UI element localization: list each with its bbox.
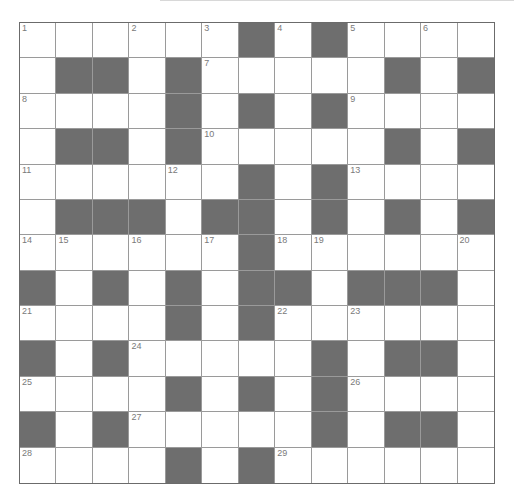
grid-cell-r12-c3[interactable] xyxy=(129,448,165,483)
grid-cell-r12-c0[interactable]: 28 xyxy=(20,448,56,483)
grid-cell-r4-c5[interactable] xyxy=(202,165,238,200)
grid-cell-r6-c7[interactable]: 18 xyxy=(275,235,311,270)
grid-cell-r10-c0[interactable]: 25 xyxy=(20,377,56,412)
grid-cell-r8-c12[interactable] xyxy=(458,306,494,341)
grid-cell-r7-c1[interactable] xyxy=(56,271,92,306)
grid-cell-r10-c12[interactable] xyxy=(458,377,494,412)
grid-cell-r1-c0[interactable] xyxy=(20,58,56,93)
grid-cell-r9-c5[interactable] xyxy=(202,341,238,376)
grid-cell-r12-c7[interactable]: 29 xyxy=(275,448,311,483)
grid-cell-r6-c10[interactable] xyxy=(385,235,421,270)
grid-cell-r7-c5[interactable] xyxy=(202,271,238,306)
grid-cell-r6-c1[interactable]: 15 xyxy=(56,235,92,270)
grid-cell-r6-c4[interactable] xyxy=(166,235,202,270)
grid-cell-r5-c0[interactable] xyxy=(20,200,56,235)
grid-cell-r0-c0[interactable]: 1 xyxy=(20,23,56,58)
grid-cell-r8-c7[interactable]: 22 xyxy=(275,306,311,341)
grid-cell-r3-c0[interactable] xyxy=(20,129,56,164)
grid-cell-r12-c2[interactable] xyxy=(93,448,129,483)
grid-cell-r0-c1[interactable] xyxy=(56,23,92,58)
grid-cell-r2-c11[interactable] xyxy=(421,94,457,129)
grid-cell-r8-c2[interactable] xyxy=(93,306,129,341)
grid-cell-r5-c7[interactable] xyxy=(275,200,311,235)
grid-cell-r4-c0[interactable]: 11 xyxy=(20,165,56,200)
grid-cell-r2-c1[interactable] xyxy=(56,94,92,129)
grid-cell-r4-c10[interactable] xyxy=(385,165,421,200)
grid-cell-r9-c6[interactable] xyxy=(239,341,275,376)
grid-cell-r0-c9[interactable]: 5 xyxy=(348,23,384,58)
grid-cell-r10-c7[interactable] xyxy=(275,377,311,412)
grid-cell-r4-c11[interactable] xyxy=(421,165,457,200)
grid-cell-r1-c6[interactable] xyxy=(239,58,275,93)
grid-cell-r8-c1[interactable] xyxy=(56,306,92,341)
grid-cell-r6-c8[interactable]: 19 xyxy=(312,235,348,270)
grid-cell-r8-c11[interactable] xyxy=(421,306,457,341)
grid-cell-r2-c3[interactable] xyxy=(129,94,165,129)
grid-cell-r1-c8[interactable] xyxy=(312,58,348,93)
grid-cell-r0-c4[interactable] xyxy=(166,23,202,58)
grid-cell-r8-c10[interactable] xyxy=(385,306,421,341)
grid-cell-r12-c8[interactable] xyxy=(312,448,348,483)
grid-cell-r10-c1[interactable] xyxy=(56,377,92,412)
grid-cell-r4-c12[interactable] xyxy=(458,165,494,200)
grid-cell-r12-c12[interactable] xyxy=(458,448,494,483)
grid-cell-r3-c9[interactable] xyxy=(348,129,384,164)
grid-cell-r8-c5[interactable] xyxy=(202,306,238,341)
grid-cell-r6-c11[interactable] xyxy=(421,235,457,270)
grid-cell-r11-c12[interactable] xyxy=(458,412,494,447)
grid-cell-r4-c9[interactable]: 13 xyxy=(348,165,384,200)
grid-cell-r12-c9[interactable] xyxy=(348,448,384,483)
grid-cell-r1-c9[interactable] xyxy=(348,58,384,93)
grid-cell-r11-c5[interactable] xyxy=(202,412,238,447)
grid-cell-r6-c3[interactable]: 16 xyxy=(129,235,165,270)
grid-cell-r9-c12[interactable] xyxy=(458,341,494,376)
grid-cell-r7-c8[interactable] xyxy=(312,271,348,306)
grid-cell-r11-c4[interactable] xyxy=(166,412,202,447)
grid-cell-r0-c2[interactable] xyxy=(93,23,129,58)
grid-cell-r8-c3[interactable] xyxy=(129,306,165,341)
grid-cell-r10-c11[interactable] xyxy=(421,377,457,412)
grid-cell-r5-c4[interactable] xyxy=(166,200,202,235)
grid-cell-r11-c9[interactable] xyxy=(348,412,384,447)
grid-cell-r4-c4[interactable]: 12 xyxy=(166,165,202,200)
grid-cell-r9-c9[interactable] xyxy=(348,341,384,376)
grid-cell-r4-c2[interactable] xyxy=(93,165,129,200)
grid-cell-r7-c12[interactable] xyxy=(458,271,494,306)
grid-cell-r0-c3[interactable]: 2 xyxy=(129,23,165,58)
grid-cell-r12-c10[interactable] xyxy=(385,448,421,483)
grid-cell-r2-c5[interactable] xyxy=(202,94,238,129)
grid-cell-r8-c0[interactable]: 21 xyxy=(20,306,56,341)
grid-cell-r3-c6[interactable] xyxy=(239,129,275,164)
grid-cell-r10-c3[interactable] xyxy=(129,377,165,412)
grid-cell-r2-c12[interactable] xyxy=(458,94,494,129)
grid-cell-r6-c5[interactable]: 17 xyxy=(202,235,238,270)
grid-cell-r9-c3[interactable]: 24 xyxy=(129,341,165,376)
grid-cell-r4-c7[interactable] xyxy=(275,165,311,200)
grid-cell-r11-c6[interactable] xyxy=(239,412,275,447)
grid-cell-r2-c2[interactable] xyxy=(93,94,129,129)
grid-cell-r0-c7[interactable]: 4 xyxy=(275,23,311,58)
grid-cell-r12-c5[interactable] xyxy=(202,448,238,483)
grid-cell-r0-c10[interactable] xyxy=(385,23,421,58)
grid-cell-r3-c5[interactable]: 10 xyxy=(202,129,238,164)
grid-cell-r8-c9[interactable]: 23 xyxy=(348,306,384,341)
grid-cell-r1-c7[interactable] xyxy=(275,58,311,93)
grid-cell-r2-c9[interactable]: 9 xyxy=(348,94,384,129)
grid-cell-r7-c3[interactable] xyxy=(129,271,165,306)
grid-cell-r11-c3[interactable]: 27 xyxy=(129,412,165,447)
grid-cell-r6-c9[interactable] xyxy=(348,235,384,270)
grid-cell-r2-c0[interactable]: 8 xyxy=(20,94,56,129)
grid-cell-r1-c3[interactable] xyxy=(129,58,165,93)
grid-cell-r11-c7[interactable] xyxy=(275,412,311,447)
grid-cell-r2-c7[interactable] xyxy=(275,94,311,129)
grid-cell-r3-c7[interactable] xyxy=(275,129,311,164)
grid-cell-r3-c3[interactable] xyxy=(129,129,165,164)
grid-cell-r4-c3[interactable] xyxy=(129,165,165,200)
grid-cell-r9-c7[interactable] xyxy=(275,341,311,376)
grid-cell-r1-c5[interactable]: 7 xyxy=(202,58,238,93)
grid-cell-r1-c11[interactable] xyxy=(421,58,457,93)
grid-cell-r12-c1[interactable] xyxy=(56,448,92,483)
grid-cell-r12-c11[interactable] xyxy=(421,448,457,483)
grid-cell-r6-c0[interactable]: 14 xyxy=(20,235,56,270)
grid-cell-r0-c11[interactable]: 6 xyxy=(421,23,457,58)
